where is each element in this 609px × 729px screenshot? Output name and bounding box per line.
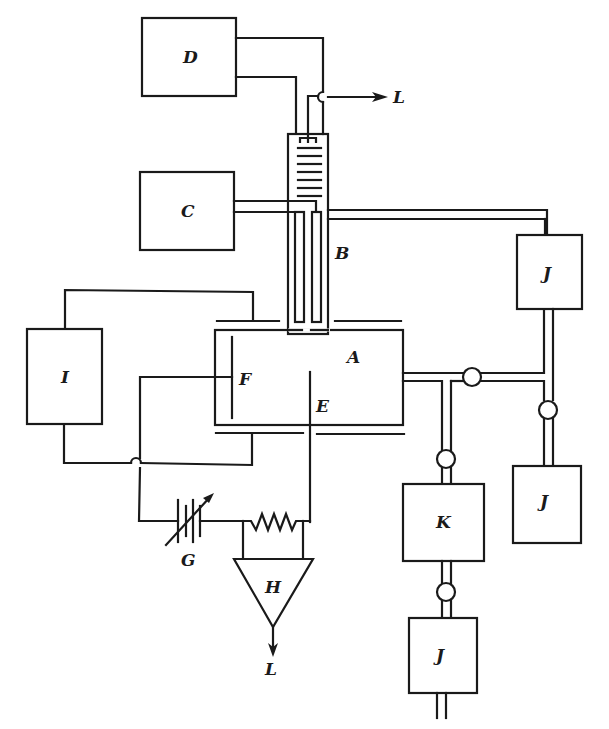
battery-g: G [166, 493, 243, 570]
label-d: D [182, 47, 198, 67]
label-e: E [315, 396, 330, 416]
pipe-b-to-j [328, 210, 547, 235]
d-tube-connections: L [236, 38, 405, 142]
label-h: H [264, 577, 282, 597]
f-wire [139, 377, 232, 521]
block-k: K [403, 484, 484, 618]
label-l-bottom: L [264, 659, 277, 679]
block-c: C [140, 172, 316, 250]
label-b: B [334, 243, 349, 263]
label-f: F [238, 369, 253, 389]
label-g: G [181, 550, 196, 570]
label-c: C [181, 201, 195, 221]
label-l-top: L [392, 87, 405, 107]
label-i: I [60, 367, 70, 387]
block-j-right: J [513, 466, 581, 543]
block-d: D [142, 18, 236, 96]
schematic-diagram: D L B C [0, 0, 609, 729]
block-j-top: J [517, 235, 582, 309]
chamber-a: F E A [215, 321, 404, 522]
resistor-amplifier-h: H L [234, 514, 313, 679]
block-j-bottom: J [409, 618, 477, 718]
pipe-network [403, 309, 557, 484]
label-a: A [345, 347, 360, 367]
tube-b: B [288, 134, 349, 334]
label-k: K [435, 512, 452, 532]
